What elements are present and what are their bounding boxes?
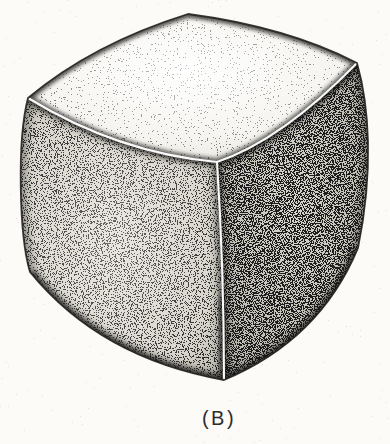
figure-label: (B)	[202, 407, 236, 430]
figure-panel: (B)	[0, 0, 390, 444]
stippled-cube-illustration	[0, 0, 390, 444]
